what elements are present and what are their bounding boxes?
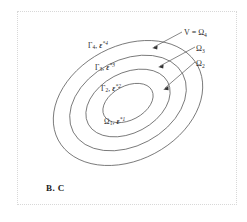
region-label-gamma4: Γ4, ε*4 <box>88 41 108 50</box>
epsilon2-superscript: *2 <box>115 83 121 89</box>
ellipse-omega2 <box>74 55 182 150</box>
figure-caption: B. C <box>46 183 65 193</box>
nested-ellipse-diagram <box>0 0 247 222</box>
leader-lines <box>152 32 195 90</box>
v-equals-prefix: V = <box>184 28 198 37</box>
omega1-symbol: Ω <box>104 117 110 126</box>
omega4-subscript: 4 <box>204 32 207 38</box>
leader-line-omega3 <box>160 47 195 66</box>
epsilon4-superscript: *4 <box>102 40 108 46</box>
arrowhead-omega3 <box>158 64 163 68</box>
leader-line-omega2 <box>165 62 195 88</box>
ellipse-group <box>31 16 224 191</box>
leader-line-omega4 <box>154 32 182 47</box>
annotation-omega3: Ω3 <box>196 44 205 53</box>
region-label-gamma3: Γ3, ε*3 <box>95 63 115 72</box>
annotation-omega2: Ω2 <box>196 59 205 68</box>
gamma4-subscript: 4 <box>92 44 95 50</box>
region-label-gamma2: Γ2, ε*2 <box>101 84 121 93</box>
omega2-subscript: 2 <box>202 63 205 69</box>
annotation-v-omega4: V = Ω4 <box>184 28 207 37</box>
figure-screenshot: Γ4, ε*4 Γ3, ε*3 Γ2, ε*2 Ω1, ε*1 V = Ω4 Ω… <box>0 0 247 222</box>
arrowhead-omega4 <box>152 45 157 49</box>
ellipse-omega3 <box>53 36 203 170</box>
gamma3-subscript: 3 <box>99 66 102 72</box>
ellipse-omega4 <box>31 16 224 191</box>
gamma2-subscript: 2 <box>105 87 108 93</box>
epsilon3-superscript: *3 <box>109 62 115 68</box>
region-label-omega1: Ω1, ε*1 <box>104 117 125 126</box>
epsilon1-superscript: *1 <box>120 116 126 122</box>
omega3-subscript: 3 <box>202 48 205 54</box>
